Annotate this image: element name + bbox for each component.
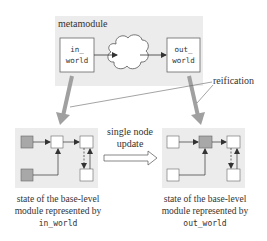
right-state-panel — [162, 128, 245, 188]
in-world-line1: in_ — [70, 45, 84, 54]
node — [167, 169, 179, 181]
out-world-box: out_ world — [167, 38, 200, 72]
in-world-line2: world — [66, 56, 89, 65]
left-caption-line2: module represented by — [15, 206, 102, 216]
out-world-line1: out_ — [174, 45, 193, 54]
metamodule-panel: metamodule in_ world out_ world — [55, 16, 203, 86]
left-caption-line1: state of the base-level — [17, 194, 100, 204]
transition-line2: update — [117, 138, 144, 149]
out-world-line2: world — [172, 56, 195, 65]
node — [167, 136, 179, 148]
node — [227, 169, 240, 181]
left-caption-code: in_world — [39, 219, 78, 228]
reification-label: reification — [213, 75, 254, 86]
node-gray — [199, 136, 212, 148]
right-caption-code: out_world — [183, 219, 227, 228]
transition-line1: single node — [107, 126, 153, 137]
node-gray — [21, 169, 33, 181]
left-state-panel — [15, 128, 98, 188]
node — [51, 136, 63, 148]
node — [80, 136, 93, 148]
metamodule-label: metamodule — [58, 18, 108, 29]
right-caption-line2: module represented by — [162, 206, 249, 216]
node — [227, 136, 240, 148]
reification-leader-right — [197, 85, 213, 103]
right-caption-line1: state of the base-level — [164, 194, 247, 204]
hollow-arrow-icon — [104, 151, 157, 165]
in-world-box: in_ world — [60, 38, 94, 72]
node — [80, 169, 93, 181]
diagram-canvas: metamodule in_ world out_ world reificat… — [0, 0, 267, 241]
node-gray — [21, 136, 33, 148]
